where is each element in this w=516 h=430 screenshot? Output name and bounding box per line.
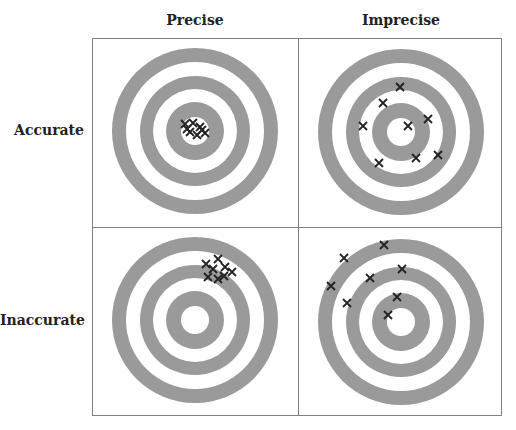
- target-inaccurate-imprecise: [318, 239, 484, 405]
- target-accurate-imprecise: [318, 49, 484, 215]
- target-grid: [0, 0, 516, 430]
- target-ring: [181, 306, 209, 334]
- hit-mark-x-icon: [340, 254, 348, 262]
- target-inaccurate-precise: [112, 237, 278, 403]
- target-accurate-precise: [112, 48, 278, 214]
